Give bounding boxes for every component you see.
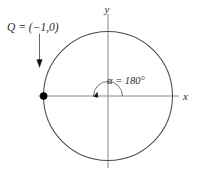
figure-canvas: y x Q = (−1,0) α = 180° [0,0,202,171]
unit-circle-figure: y x Q = (−1,0) α = 180° [0,0,202,171]
callout-arrow-head [37,60,43,68]
y-axis-label: y [104,3,110,15]
point-q-marker [40,92,47,99]
x-axis-label: x [182,90,188,102]
point-q-label: Q = (−1,0) [7,21,59,34]
angle-label: α = 180° [107,75,146,86]
